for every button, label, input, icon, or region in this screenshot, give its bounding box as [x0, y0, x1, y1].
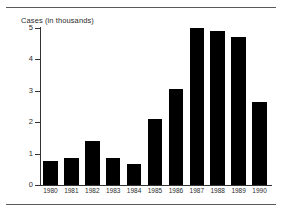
x-axis-tick-label: 1990 — [249, 187, 270, 194]
bar — [252, 102, 267, 185]
y-axis-tick-label: 4 — [29, 54, 33, 63]
bar — [106, 158, 121, 185]
x-axis-tick-label: 1988 — [207, 187, 228, 194]
x-axis-tick-label: 1981 — [61, 187, 82, 194]
y-axis-tick-label: 3 — [29, 86, 33, 95]
bar — [127, 164, 142, 185]
x-axis-tick-label: 1984 — [124, 187, 145, 194]
bar — [148, 119, 163, 185]
bar — [64, 158, 79, 185]
y-axis-tick-label: 5 — [29, 23, 33, 32]
x-axis-tick-label: 1989 — [228, 187, 249, 194]
bar-chart-figure: Cases (in thousands) 012345 198019811982… — [0, 0, 282, 215]
y-axis-tick-label: 2 — [29, 117, 33, 126]
bar — [169, 89, 184, 185]
x-axis-tick-label: 1980 — [40, 187, 61, 194]
bar — [190, 28, 205, 185]
x-axis-tick-label: 1982 — [82, 187, 103, 194]
bar-series — [40, 28, 270, 185]
bar — [85, 141, 100, 185]
x-axis-tick-label: 1987 — [186, 187, 207, 194]
bar — [210, 31, 225, 185]
y-axis-tick: 0 — [35, 185, 40, 186]
x-axis-tick-label: 1986 — [165, 187, 186, 194]
bar — [231, 37, 246, 185]
x-axis-line — [40, 185, 272, 186]
bottom-divider-rule — [6, 204, 276, 205]
x-axis-labels: 1980198119821983198419851986198719881989… — [40, 187, 270, 199]
y-axis-tick-label: 0 — [29, 180, 33, 189]
x-axis-tick-label: 1985 — [145, 187, 166, 194]
x-axis-tick-label: 1983 — [103, 187, 124, 194]
top-divider-rule — [6, 7, 276, 8]
bar — [43, 161, 58, 185]
y-axis-tick-label: 1 — [29, 149, 33, 158]
